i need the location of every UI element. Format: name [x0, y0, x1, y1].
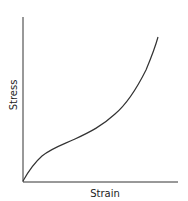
- y-axis-label: Stress: [8, 80, 19, 111]
- stress-strain-chart: [0, 0, 188, 201]
- x-axis-label: Strain: [90, 188, 120, 199]
- stress-strain-curve: [23, 37, 158, 181]
